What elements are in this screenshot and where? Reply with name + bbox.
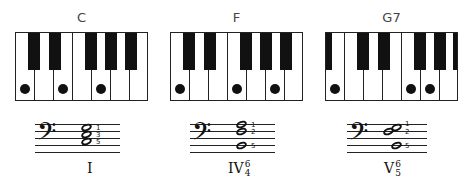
piano-keyboard	[325, 32, 458, 101]
roman-numeral-label: V	[384, 160, 394, 176]
black-key-fsharp	[414, 33, 426, 70]
black-key-csharp	[357, 33, 369, 70]
black-key-dsharp	[378, 33, 390, 70]
piano-keyboard	[15, 32, 148, 101]
chord-tone-dot	[406, 84, 416, 94]
roman-numeral-label: I	[87, 160, 93, 176]
fingering-number: 5	[405, 143, 409, 150]
fingering-number: 2	[251, 129, 255, 136]
fingering-number: 1	[405, 121, 409, 128]
black-key-dsharp	[204, 33, 216, 70]
chord-tone-dot	[270, 84, 280, 94]
bass-staff: 𝄢 1 2 5	[347, 118, 427, 158]
piano-keyboard	[170, 32, 303, 101]
chord-tone-dot	[330, 84, 340, 94]
bass-clef-icon: 𝄢	[349, 120, 368, 150]
roman-numeral-label: IV	[228, 160, 244, 176]
staff-line	[35, 152, 120, 153]
black-key-gsharp	[260, 33, 272, 70]
fingering-number: 5	[251, 143, 255, 150]
figured-bass: 65	[395, 160, 401, 178]
chord-f: F 𝄢 1 2 5 IV64	[170, 0, 303, 187]
roman-numeral: IV64	[228, 160, 250, 178]
roman-numeral: I	[87, 160, 93, 176]
bass-staff: 𝄢 1 2 5	[190, 118, 275, 158]
chord-tone-dot	[96, 84, 106, 94]
fingering-number: 5	[96, 139, 100, 146]
black-key-csharp	[28, 33, 40, 70]
black-key-gsharp	[434, 33, 446, 70]
chord-c: C 𝄢 1 3 5 I	[15, 0, 148, 187]
bass-clef-icon: 𝄢	[192, 120, 211, 150]
note-head	[235, 140, 248, 150]
chord-g7: G7 𝄢 1 2 5 V65	[325, 0, 458, 187]
black-key-fsharp	[85, 33, 97, 70]
chord-tone-dot	[20, 84, 30, 94]
black-key-asharp	[280, 33, 292, 70]
chord-tone-dot	[58, 84, 68, 94]
bass-clef-icon: 𝄢	[37, 120, 56, 150]
black-key-asharp-partial	[453, 33, 458, 70]
black-key-gsharp	[105, 33, 117, 70]
black-key-dsharp	[49, 33, 61, 70]
figure-bottom: 5	[395, 169, 401, 178]
chord-tone-dot	[425, 84, 435, 94]
figure-bottom: 4	[245, 169, 251, 178]
staff-line	[347, 152, 427, 153]
bass-staff: 𝄢 1 3 5	[35, 118, 120, 158]
black-key-asharp	[125, 33, 137, 70]
fingering-number: 2	[405, 129, 409, 136]
staff-line	[190, 152, 275, 153]
chord-name: G7	[325, 10, 458, 25]
roman-numeral: V65	[384, 160, 401, 178]
chord-name: F	[170, 10, 303, 25]
figured-bass: 64	[245, 160, 251, 178]
note-head	[390, 140, 403, 150]
chord-tone-dot	[232, 84, 242, 94]
black-key-fsharp	[240, 33, 252, 70]
chord-name: C	[15, 10, 148, 25]
black-key-csharp	[183, 33, 195, 70]
black-key-asharp-partial	[326, 33, 332, 70]
chord-tone-dot	[175, 84, 185, 94]
